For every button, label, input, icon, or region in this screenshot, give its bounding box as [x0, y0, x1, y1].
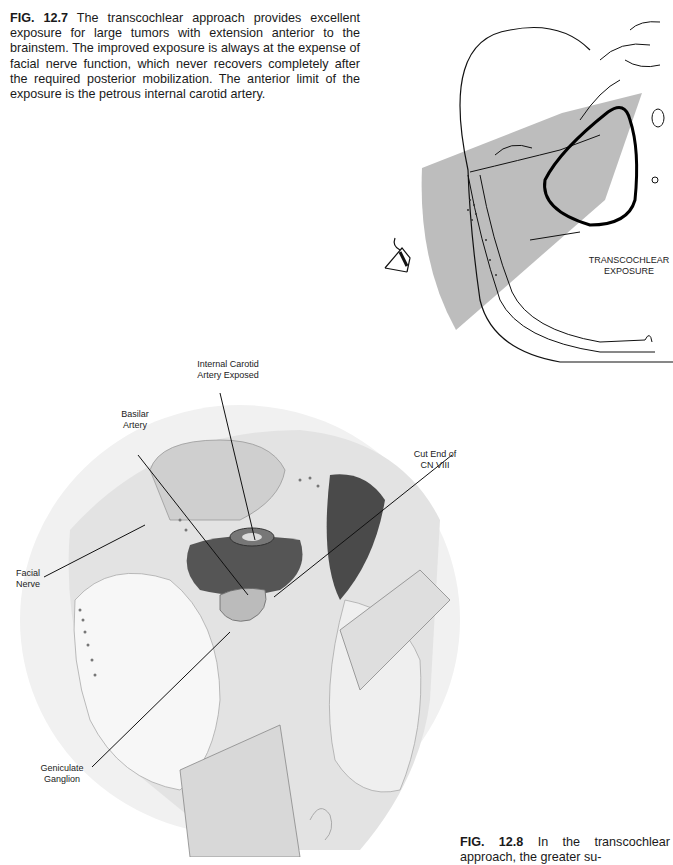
label-line: Artery — [110, 420, 160, 431]
label-facial-nerve: Facial Nerve — [10, 568, 46, 590]
label-basilar-artery: Basilar Artery — [110, 409, 160, 431]
exposure-wedge — [422, 93, 642, 330]
figure-12-8-caption: FIG. 12.8 In the transcochlear approach,… — [460, 835, 670, 865]
label-line: EXPOSURE — [585, 266, 673, 277]
label-geniculate-ganglion: Geniculate Ganglion — [30, 763, 94, 785]
label-line: Cut End of — [400, 449, 470, 460]
transcochlear-schematic — [385, 22, 673, 362]
label-line: Ganglion — [30, 774, 94, 785]
eye-icon — [385, 238, 410, 272]
label-line: CN VIII — [400, 460, 470, 471]
label-line: TRANSCOCHLEAR — [585, 255, 673, 266]
transcochlear-exposure-label: TRANSCOCHLEAR EXPOSURE — [585, 255, 673, 277]
label-line: Facial — [10, 568, 46, 579]
label-line: Internal Carotid — [188, 359, 268, 370]
label-line: Basilar — [110, 409, 160, 420]
surgical-illustration — [20, 393, 460, 857]
label-line: Nerve — [10, 579, 46, 590]
label-line: Geniculate — [30, 763, 94, 774]
figure-12-8-caption-label: FIG. 12.8 — [460, 835, 523, 849]
label-line: Artery Exposed — [188, 370, 268, 381]
label-internal-carotid: Internal Carotid Artery Exposed — [188, 359, 268, 381]
label-cut-end-cn-viii: Cut End of CN VIII — [400, 449, 470, 471]
